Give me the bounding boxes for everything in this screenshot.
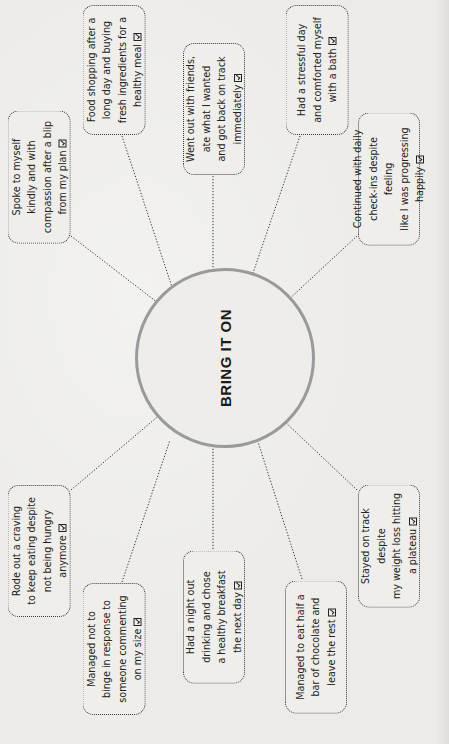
note-line: check-ins despite feeling [368, 137, 395, 221]
note-line: immediately [232, 85, 243, 145]
connector-checkins [286, 236, 357, 302]
note-line: like I was progressing [399, 127, 410, 230]
checked-box-icon [234, 581, 242, 589]
connector-bath [253, 136, 300, 273]
note-line: a plateau [407, 528, 418, 573]
note-line: Spoke to myself [10, 138, 21, 215]
note-line: Stayed on track despite [360, 508, 387, 584]
note-line: compassion after a blip [41, 120, 52, 232]
note-line: anymore [56, 535, 67, 578]
note-line: on my size [131, 629, 142, 681]
note-line: a healthy breakfast [216, 570, 227, 663]
note-box: Managed to eat half a bar of chocolate a… [285, 580, 347, 713]
note-line: binge in response to [100, 600, 111, 698]
note-box: Stayed on track despite my weight loss h… [358, 484, 420, 607]
note-line: from my plan [56, 150, 67, 214]
note-line: Went out with friends, [185, 56, 196, 162]
note-box: Managed not to binge in response to some… [82, 583, 145, 715]
note-line: fresh ingredients for a [116, 17, 127, 123]
connector-plateau [283, 420, 357, 490]
note-box: Had a night out drinking and chose a hea… [183, 550, 245, 683]
note-box: Spoke to myself kindly and with compassi… [7, 110, 70, 243]
note-checkins: Continued with daily check-ins despite f… [358, 112, 420, 245]
note-line: healthy meal [131, 44, 142, 107]
note-box: Rode out a craving to keep eating despit… [7, 485, 70, 617]
connector-binge [122, 440, 170, 582]
central-title: BRING IT ON [217, 309, 234, 407]
note-line: ate what I wanted [201, 66, 212, 153]
checked-box-icon [58, 524, 66, 532]
note-line: leave the rest [326, 619, 337, 685]
note-box: Had a stressful day and comforted myself… [285, 5, 348, 135]
note-line: Continued with daily [352, 129, 363, 228]
connector-food [122, 136, 172, 287]
note-food: Food shopping after a long day and buyin… [82, 5, 145, 135]
note-line: and got back on track [216, 56, 227, 161]
note-line: Food shopping after a [85, 18, 96, 123]
note-chocolate: Managed to eat half a bar of chocolate a… [285, 580, 347, 713]
note-line: Managed to eat half a [295, 594, 306, 699]
note-line: the next day [232, 592, 243, 653]
note-plateau: Stayed on track despite my weight loss h… [358, 484, 420, 607]
note-line: my weight loss hitting [391, 492, 402, 598]
checked-box-icon [328, 608, 336, 616]
note-line: not being hungry [41, 510, 52, 593]
note-line: to keep eating despite [25, 497, 36, 605]
note-bath: Had a stressful day and comforted myself… [285, 5, 348, 135]
note-spoke: Spoke to myself kindly and with compassi… [7, 110, 70, 243]
note-box: Continued with daily check-ins despite f… [358, 112, 420, 245]
note-line: and comforted myself [311, 17, 322, 123]
checked-box-icon [58, 139, 66, 147]
note-line: Had a stressful day [295, 24, 306, 116]
note-line: kindly and with [25, 140, 36, 213]
connector-spoke [71, 236, 162, 306]
note-line: with a bath [326, 48, 337, 102]
note-line: long day and buying [100, 21, 111, 119]
note-box: Food shopping after a long day and buyin… [82, 5, 145, 135]
connector-chocolate [258, 442, 302, 579]
note-box: Went out with friends, ate what I wanted… [183, 43, 245, 175]
connector-craving [71, 413, 162, 490]
checked-box-icon [133, 33, 141, 41]
note-line: someone commenting [116, 595, 127, 702]
note-binge: Managed not to binge in response to some… [82, 583, 145, 715]
note-line: drinking and chose [201, 571, 212, 662]
checked-box-icon [328, 37, 336, 45]
note-craving: Rode out a craving to keep eating despit… [7, 485, 70, 617]
checked-box-icon [234, 74, 242, 82]
note-line: Managed not to [85, 611, 96, 687]
note-friends: Went out with friends, ate what I wanted… [183, 43, 245, 175]
note-line: bar of chocolate and [310, 597, 321, 696]
central-circle: BRING IT ON [135, 268, 315, 448]
note-nightout: Had a night out drinking and chose a hea… [183, 550, 245, 683]
note-line: Had a night out [185, 579, 196, 654]
checked-box-icon [133, 618, 141, 626]
checked-box-icon [409, 517, 417, 525]
checked-box-icon [416, 155, 424, 163]
note-line: happily [414, 166, 425, 201]
note-line: Rode out a craving [10, 506, 21, 596]
